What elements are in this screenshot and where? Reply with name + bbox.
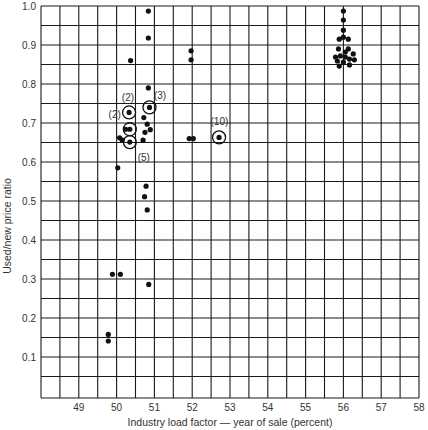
point-count-label: (3) <box>154 90 166 101</box>
data-point <box>145 122 150 127</box>
data-point <box>191 136 196 141</box>
y-axis-ticks: 0.10.20.30.40.50.60.70.80.91.0 <box>22 1 36 363</box>
data-point <box>341 28 346 33</box>
y-tick-label: 0.8 <box>22 79 36 90</box>
x-tick-label: 57 <box>376 402 388 413</box>
data-point <box>341 8 346 13</box>
x-tick-label: 53 <box>224 402 236 413</box>
data-point <box>338 53 343 58</box>
x-tick-label: 54 <box>262 402 274 413</box>
data-point <box>106 338 111 343</box>
data-point <box>128 58 133 63</box>
data-points <box>106 8 357 343</box>
data-point <box>335 58 340 63</box>
data-point <box>126 110 131 115</box>
x-tick-label: 50 <box>111 402 123 413</box>
data-point <box>127 140 132 145</box>
data-point <box>188 48 193 53</box>
y-tick-label: 0.3 <box>22 274 36 285</box>
point-count-label: (10) <box>211 116 229 127</box>
x-axis-label: Industry load factor — year of sale (per… <box>128 416 333 428</box>
data-point <box>341 60 346 65</box>
data-point <box>346 37 351 42</box>
data-point <box>351 51 356 56</box>
y-tick-label: 1.0 <box>22 1 36 12</box>
point-count-label: (2) <box>122 92 134 103</box>
y-tick-label: 0.7 <box>22 118 36 129</box>
data-point <box>143 184 148 189</box>
data-point <box>148 127 153 132</box>
data-point <box>146 85 151 90</box>
data-point <box>110 272 115 277</box>
data-point <box>216 135 221 140</box>
x-tick-label: 49 <box>73 402 85 413</box>
x-axis-ticks: 49505152535455565758 <box>73 402 425 413</box>
data-point <box>146 282 151 287</box>
data-point <box>352 57 357 62</box>
data-point <box>141 115 146 120</box>
point-count-label: (5) <box>138 152 150 163</box>
x-tick-label: 55 <box>300 402 312 413</box>
data-point <box>336 46 341 51</box>
scatter-chart: 0.10.20.30.40.50.60.70.80.91.0 495051525… <box>0 0 428 430</box>
x-tick-label: 56 <box>338 402 350 413</box>
data-point <box>115 165 120 170</box>
x-tick-label: 58 <box>413 402 425 413</box>
data-point <box>188 57 193 62</box>
data-point <box>106 332 111 337</box>
x-tick-label: 51 <box>149 402 161 413</box>
y-tick-label: 0.4 <box>22 235 36 246</box>
data-point <box>341 17 346 22</box>
data-point <box>347 56 352 61</box>
data-point <box>147 105 152 110</box>
data-point <box>142 130 147 135</box>
data-point <box>337 63 342 68</box>
y-tick-label: 0.1 <box>22 352 36 363</box>
data-point <box>123 127 128 132</box>
data-point <box>146 35 151 40</box>
grid <box>41 6 419 398</box>
y-tick-label: 0.9 <box>22 40 36 51</box>
count-annotations: (2)(2)(3)(5)(10) <box>109 90 229 163</box>
data-point <box>140 138 145 143</box>
y-tick-label: 0.2 <box>22 313 36 324</box>
point-count-label: (2) <box>109 109 121 120</box>
data-point <box>347 62 352 67</box>
data-point <box>142 194 147 199</box>
data-point <box>146 8 151 13</box>
y-tick-label: 0.5 <box>22 196 36 207</box>
y-tick-label: 0.6 <box>22 157 36 168</box>
x-tick-label: 52 <box>187 402 199 413</box>
data-point <box>343 49 348 54</box>
y-axis-label: Used/new price ratio <box>1 178 13 274</box>
data-point <box>145 207 150 212</box>
data-point <box>337 37 342 42</box>
data-point <box>118 272 123 277</box>
